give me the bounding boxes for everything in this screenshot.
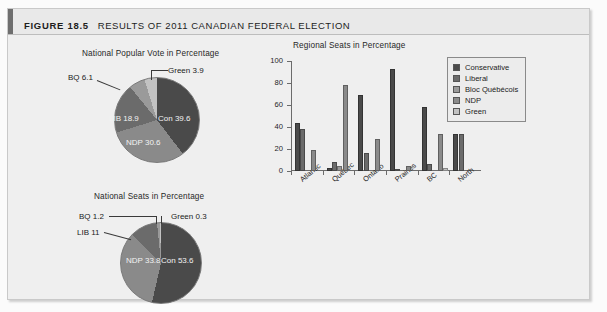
- bar-ndp-bc: [438, 134, 443, 171]
- pie2-title: National Seats in Percentage: [94, 192, 204, 201]
- legend-swatch: [453, 64, 460, 71]
- legend-item-liberal: Liberal: [453, 73, 518, 84]
- y-tick: [287, 61, 291, 62]
- y-tick-label: 80: [261, 78, 283, 87]
- bar-ndp-prairies: [406, 166, 411, 172]
- pie2-label-bq: BQ 1.2: [79, 212, 104, 221]
- y-tick-label: 0: [261, 166, 283, 175]
- bar-liberal-atlantic: [300, 129, 305, 171]
- legend-label: Bloc Québécois: [465, 85, 518, 94]
- legend-label: Green: [465, 107, 486, 116]
- bar-ndp-qu-bec: [343, 85, 348, 171]
- pie1-label-ndp: NDP 30.6: [126, 138, 161, 147]
- y-axis: [291, 61, 292, 171]
- pie2-label-con: Con 53.6: [161, 256, 193, 265]
- y-tick-label: 40: [261, 122, 283, 131]
- y-tick-label: 60: [261, 100, 283, 109]
- legend-item-conservative: Conservative: [453, 62, 518, 73]
- legend-label: Conservative: [465, 63, 509, 72]
- pie2-lib-leader: [104, 232, 131, 240]
- x-tick: [449, 171, 450, 175]
- figure-caption: FIGURE 18.5RESULTS OF 2011 CANADIAN FEDE…: [24, 15, 350, 33]
- figure-header: FIGURE 18.5RESULTS OF 2011 CANADIAN FEDE…: [8, 9, 589, 35]
- legend-swatch: [453, 108, 460, 115]
- y-tick: [287, 83, 291, 84]
- y-tick: [287, 149, 291, 150]
- bar-liberal-prairies: [395, 169, 400, 171]
- pie1-bq-leader: [97, 80, 121, 90]
- legend-item-bloc-qu-b-cois: Bloc Québécois: [453, 84, 518, 95]
- y-tick: [287, 127, 291, 128]
- bar-liberal-bc: [427, 164, 432, 171]
- x-tick: [386, 171, 387, 175]
- pie2-label-green: Green 0.3: [171, 212, 207, 221]
- bar-chart-title: Regional Seats in Percentage: [293, 41, 406, 50]
- bar-liberal-north: [459, 134, 464, 171]
- pie1-label-lib: LIB 18.9: [109, 114, 139, 123]
- legend-swatch: [453, 97, 460, 104]
- pie1-label-bq: BQ 6.1: [68, 73, 93, 82]
- pie1-title: National Popular Vote in Percentage: [82, 49, 219, 58]
- bar-conservative-qu-bec: [327, 168, 332, 171]
- y-tick-label: 20: [261, 144, 283, 153]
- y-tick-label: 100: [261, 56, 283, 65]
- bar-conservative-ontario: [358, 95, 363, 171]
- pie1-green-leader: [151, 70, 168, 71]
- legend-swatch: [453, 75, 460, 82]
- y-tick: [287, 105, 291, 106]
- pie2-green-leader-drop: [161, 216, 162, 224]
- pie2-bq-leader-drop: [156, 216, 157, 224]
- x-tick: [418, 171, 419, 175]
- bar-liberal-ontario: [364, 153, 369, 171]
- x-tick: [323, 171, 324, 175]
- bar-conservative-north: [453, 134, 458, 171]
- legend-label: NDP: [465, 96, 481, 105]
- bar-chart: Regional Seats in Percentage 02040608010…: [251, 39, 581, 214]
- pie1-label-green: Green 3.9: [168, 66, 204, 75]
- bar-conservative-bc: [422, 107, 427, 171]
- bar-conservative-prairies: [390, 69, 395, 171]
- x-tick: [291, 171, 292, 175]
- bar-liberal-qu-bec: [332, 162, 337, 171]
- bar-green-bc: [443, 168, 448, 171]
- pie2-label-ndp: NDP 33.8: [126, 256, 161, 265]
- pie1-green-leader-drop: [151, 70, 152, 80]
- header-accent-bar: [8, 9, 13, 34]
- legend-swatch: [453, 86, 460, 93]
- pie2-label-lib: LIB 11: [77, 228, 100, 237]
- figure-number: FIGURE 18.5: [24, 20, 89, 31]
- bar-ndp-atlantic: [311, 150, 316, 171]
- legend-label: Liberal: [465, 74, 488, 83]
- figure-panel: FIGURE 18.5RESULTS OF 2011 CANADIAN FEDE…: [7, 8, 590, 300]
- legend-item-green: Green: [453, 106, 518, 117]
- pie1-label-con: Con 39.6: [158, 114, 190, 123]
- bar-conservative-atlantic: [295, 123, 300, 171]
- pie2-bq-leader: [109, 216, 156, 217]
- x-tick-label: BC: [425, 170, 439, 184]
- legend-item-ndp: NDP: [453, 95, 518, 106]
- chart-legend: ConservativeLiberalBloc QuébécoisNDPGree…: [447, 57, 526, 122]
- x-tick-label: Prairies: [393, 161, 418, 184]
- bar-bloc-qu-b-cois-qu-bec: [337, 166, 342, 172]
- x-tick: [354, 171, 355, 175]
- figure-title: RESULTS OF 2011 CANADIAN FEDERAL ELECTIO…: [98, 20, 351, 31]
- bar-ndp-ontario: [375, 139, 380, 171]
